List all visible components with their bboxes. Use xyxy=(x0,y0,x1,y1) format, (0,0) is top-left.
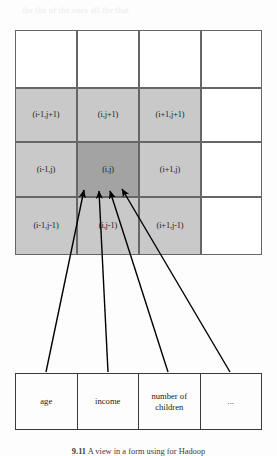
grid-cell-r0c3[interactable] xyxy=(201,30,262,88)
grid-cell-i+1-j+1[interactable]: (i+1,j+1) xyxy=(139,88,201,142)
attribute-label: income xyxy=(95,396,120,407)
grid-cell-r0c1[interactable] xyxy=(77,30,139,88)
figure-caption-text: A view in a form using for Hadoop xyxy=(88,447,205,456)
attribute-label: ... xyxy=(228,396,234,407)
grid-cell-i-j-1[interactable]: (i,j-1) xyxy=(77,197,139,255)
figure-caption: 9.11 A view in a form using for Hadoop xyxy=(0,447,277,456)
grid-cell-r3c3[interactable] xyxy=(201,197,262,255)
grid-cell-label: (i+1,j+1) xyxy=(156,110,185,119)
grid-cell-i-1-j+1[interactable]: (i-1,j+1) xyxy=(15,88,77,142)
grid-cell-label: (i,j-1) xyxy=(99,221,117,230)
grid-cell-label: (i-1,j-1) xyxy=(33,221,58,230)
grid-cell-r0c2[interactable] xyxy=(139,30,201,88)
grid-cell-label: (i,j) xyxy=(102,165,114,174)
grid-cell-label: (i-1,j+1) xyxy=(32,110,59,119)
attribute-label: age xyxy=(40,396,52,407)
grid-cell-i+1-j[interactable]: (i+1,j) xyxy=(139,142,201,197)
grid-cell-i-1-j[interactable]: (i-1,j) xyxy=(15,142,77,197)
grid-cell-label: (i+1,j-1) xyxy=(156,221,183,230)
attribute-cell-ellipsis[interactable]: ... xyxy=(201,374,262,429)
grid-cell-r0c0[interactable] xyxy=(15,30,77,88)
grid-cell-i-j-center[interactable]: (i,j) xyxy=(77,142,139,197)
grid-cell-i-j+1[interactable]: (i,j+1) xyxy=(77,88,139,142)
grid-cell-i+1-j-1[interactable]: (i+1,j-1) xyxy=(139,197,201,255)
figure-number: 9.11 xyxy=(72,447,86,456)
neighbourhood-grid: (i-1,j+1) (i,j+1) (i+1,j+1) (i-1,j) (i,j… xyxy=(15,30,262,255)
bleed-through-line-1: the the of the ones all the that xyxy=(22,6,129,15)
grid-cell-r2c3[interactable] xyxy=(201,142,262,197)
grid-cell-i-1-j-1[interactable]: (i-1,j-1) xyxy=(15,197,77,255)
attribute-label: number of children xyxy=(141,391,198,412)
grid-cell-label: (i+1,j) xyxy=(160,165,180,174)
attribute-cell-number-of-children[interactable]: number of children xyxy=(139,374,201,429)
attribute-cell-age[interactable]: age xyxy=(16,374,78,429)
grid-cell-label: (i-1,j) xyxy=(37,165,55,174)
grid-cell-r1c3[interactable] xyxy=(201,88,262,142)
attribute-cell-income[interactable]: income xyxy=(78,374,140,429)
attribute-tuple-table: age income number of children ... xyxy=(15,373,262,430)
figure-page: the the of the ones all the that of the … xyxy=(0,0,277,456)
grid-cell-label: (i,j+1) xyxy=(98,110,118,119)
